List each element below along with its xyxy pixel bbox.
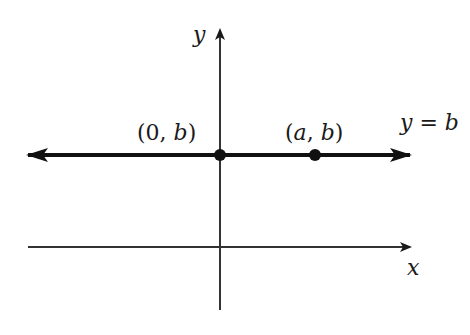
x-axis-label: x bbox=[407, 255, 420, 280]
point-0-b-label: (0, b) bbox=[137, 120, 196, 145]
point-0-b-dot bbox=[214, 149, 226, 161]
point-a-b-label: (a, b) bbox=[285, 120, 343, 145]
y-axis-label: y bbox=[192, 22, 206, 47]
coordinate-diagram: y x (0, b) (a, b) y = b bbox=[0, 0, 470, 335]
point-a-b-dot bbox=[309, 149, 321, 161]
line-equation-label: y = b bbox=[399, 110, 459, 135]
